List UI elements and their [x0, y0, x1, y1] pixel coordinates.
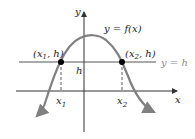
curve-left-end — [37, 106, 44, 116]
line-label: y = h — [160, 57, 188, 68]
x2-tick-label: x2 — [117, 95, 128, 109]
point-2-label: (x2, h) — [125, 48, 156, 61]
point-1-label: (x1, h) — [33, 48, 64, 61]
x-axis-label: x — [175, 94, 181, 105]
y-axis-label: y — [74, 6, 81, 17]
point-x2-h — [119, 59, 125, 65]
x1-tick-label: x1 — [56, 95, 66, 109]
h-label: h — [76, 65, 82, 76]
curve-label: y = f(x) — [103, 23, 142, 34]
diagram-canvas: y x y = f(x) y = h h (x1, h) (x2, h) x1 … — [0, 0, 195, 139]
point-x1-h — [58, 59, 64, 65]
